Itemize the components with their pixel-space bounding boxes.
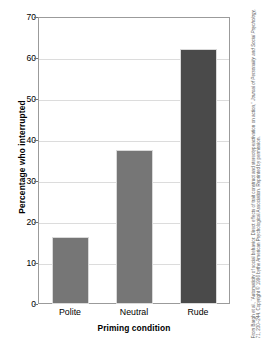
x-tick-label-polite: Polite bbox=[38, 307, 102, 317]
y-tick-label: 10 bbox=[8, 258, 36, 268]
source-credit: From Bargh et al., “Automaticity of soci… bbox=[241, 0, 270, 344]
bar-neutral bbox=[116, 150, 153, 304]
bars-group bbox=[38, 17, 230, 304]
y-tick-label: 70 bbox=[8, 12, 36, 22]
bar-chart-figure: Percentage who interrupted 0102030405060… bbox=[0, 0, 270, 344]
y-tick-label: 30 bbox=[8, 176, 36, 186]
x-tick-label-rude: Rude bbox=[166, 307, 230, 317]
y-tick-label: 50 bbox=[8, 94, 36, 104]
x-axis-title: Priming condition bbox=[38, 323, 230, 333]
y-tick-label: 20 bbox=[8, 217, 36, 227]
y-tick-label: 0 bbox=[8, 299, 36, 309]
credit-journal: Journal of Personality and Social Psycho… bbox=[251, 9, 256, 101]
source-credit-text: From Bargh et al., “Automaticity of soci… bbox=[251, 2, 262, 338]
y-tick-mark bbox=[34, 304, 38, 305]
x-tick-label-neutral: Neutral bbox=[102, 307, 166, 317]
credit-line-4: the American Psychological Association. … bbox=[256, 136, 261, 269]
credit-line-3: 71, 230–244. Copyright © 1996 by bbox=[256, 269, 261, 338]
bar-rude bbox=[180, 49, 217, 304]
y-tick-label: 40 bbox=[8, 135, 36, 145]
bar-polite bbox=[52, 237, 89, 304]
y-tick-label: 60 bbox=[8, 53, 36, 63]
